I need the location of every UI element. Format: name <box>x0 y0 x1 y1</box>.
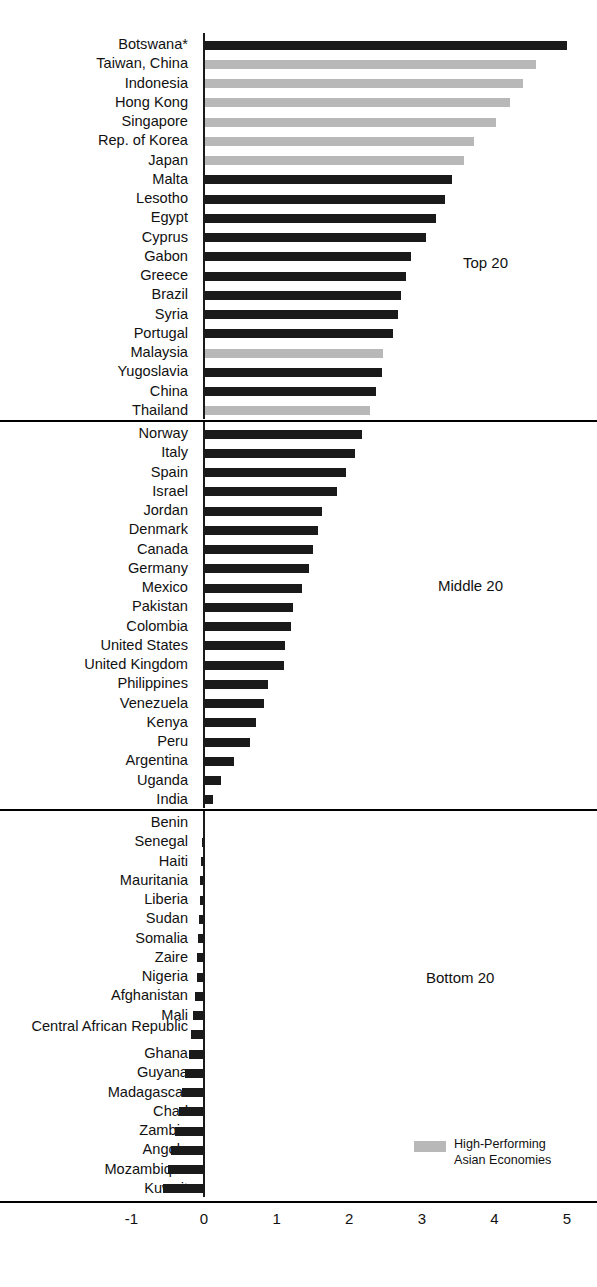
category-label: Ghana <box>0 1046 188 1061</box>
category-label: Taiwan, China <box>0 56 188 71</box>
chart-row: Israel <box>0 483 597 502</box>
chart-row: Venezuela <box>0 695 597 714</box>
x-tick-label: 0 <box>189 1210 219 1227</box>
x-tick-label: 5 <box>552 1210 582 1227</box>
chart-row: Denmark <box>0 521 597 540</box>
chart-row: Botswana* <box>0 36 597 55</box>
chart-row: Zaire <box>0 949 597 968</box>
chart-row: Haiti <box>0 853 597 872</box>
category-label: Benin <box>0 815 188 830</box>
bar <box>171 1146 204 1155</box>
x-tick-label: 1 <box>262 1210 292 1227</box>
x-tick-label: 4 <box>479 1210 509 1227</box>
chart-row: United States <box>0 637 597 656</box>
bar <box>204 641 285 650</box>
bar <box>204 564 309 573</box>
bar <box>204 387 376 396</box>
chart-row: Hong Kong <box>0 94 597 113</box>
chart-row: Chad <box>0 1103 597 1122</box>
bar <box>204 60 536 69</box>
chart-row: Germany <box>0 560 597 579</box>
bar <box>204 776 221 785</box>
chart-row: Kenya <box>0 714 597 733</box>
legend-label: High-PerformingAsian Economies <box>454 1137 551 1168</box>
chart-row: Japan <box>0 152 597 171</box>
chart-row: Portugal <box>0 325 597 344</box>
category-label: Kenya <box>0 715 188 730</box>
category-label: Pakistan <box>0 599 188 614</box>
chart-row: Ghana <box>0 1045 597 1064</box>
chart-row: Peru <box>0 733 597 752</box>
bar <box>204 41 567 50</box>
bar <box>191 1030 204 1039</box>
bar <box>204 175 452 184</box>
chart-row: Nigeria <box>0 968 597 987</box>
bar <box>185 1069 204 1078</box>
x-axis-tick-labels: -1012345 <box>0 1210 597 1232</box>
category-label: Zambia <box>0 1123 188 1138</box>
bar <box>204 718 256 727</box>
category-label: Central African Republic <box>0 1017 188 1036</box>
category-label: Chad <box>0 1104 188 1119</box>
bar <box>204 507 322 516</box>
category-label: Peru <box>0 734 188 749</box>
category-label: Philippines <box>0 676 188 691</box>
bar <box>204 156 464 165</box>
group-separator <box>0 809 597 811</box>
x-axis-line <box>0 1201 597 1203</box>
category-label: Thailand <box>0 403 188 418</box>
category-label: Japan <box>0 153 188 168</box>
bar <box>204 622 291 631</box>
chart-row: Malaysia <box>0 344 597 363</box>
bar <box>204 487 337 496</box>
category-label: Singapore <box>0 114 188 129</box>
category-label: Cyprus <box>0 230 188 245</box>
chart-row: Uganda <box>0 772 597 791</box>
zero-axis-line <box>203 811 205 1197</box>
category-label: Brazil <box>0 287 188 302</box>
x-tick-label: -1 <box>116 1210 146 1227</box>
chart-row: Brazil <box>0 286 597 305</box>
category-label: Mozambique <box>0 1162 188 1177</box>
category-label: Spain <box>0 465 188 480</box>
chart-row: Thailand <box>0 402 597 421</box>
chart-row: Philippines <box>0 675 597 694</box>
category-label: Uganda <box>0 773 188 788</box>
category-label: Jordan <box>0 503 188 518</box>
bar <box>204 329 393 338</box>
bar <box>168 1165 204 1174</box>
bar <box>204 430 362 439</box>
legend-label-line-1: High-Performing <box>454 1137 551 1153</box>
category-label: Kuwait <box>0 1181 188 1196</box>
bar <box>204 603 293 612</box>
bar <box>204 310 398 319</box>
chart-row: Colombia <box>0 618 597 637</box>
chart-row: Malta <box>0 171 597 190</box>
chart-row: India <box>0 791 597 810</box>
category-label: Nigeria <box>0 969 188 984</box>
bar <box>189 1050 204 1059</box>
category-label: Lesotho <box>0 191 188 206</box>
bar <box>204 699 264 708</box>
bar <box>204 661 284 670</box>
category-label: Germany <box>0 561 188 576</box>
category-label: Somalia <box>0 931 188 946</box>
category-label: India <box>0 792 188 807</box>
bar <box>204 118 496 127</box>
bar <box>204 526 318 535</box>
chart-row: Argentina <box>0 752 597 771</box>
chart-row: Sudan <box>0 910 597 929</box>
group-annotation: Top 20 <box>463 254 508 271</box>
category-label: Argentina <box>0 753 188 768</box>
x-tick-label: 3 <box>407 1210 437 1227</box>
bar <box>204 214 436 223</box>
chart-row: Somalia <box>0 930 597 949</box>
category-label: Afghanistan <box>0 988 188 1003</box>
category-label: Norway <box>0 426 188 441</box>
category-label: Venezuela <box>0 696 188 711</box>
bar <box>204 79 523 88</box>
category-label: Portugal <box>0 326 188 341</box>
zero-axis-line <box>203 33 205 419</box>
bar <box>204 680 268 689</box>
category-label: Malaysia <box>0 345 188 360</box>
